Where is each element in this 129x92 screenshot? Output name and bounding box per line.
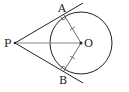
radius-ob	[64, 43, 81, 71]
point-o	[80, 42, 83, 45]
tangent-pb	[15, 43, 83, 83]
label-a: A	[57, 2, 67, 15]
point-p	[14, 42, 17, 45]
tangent-pa	[15, 3, 83, 43]
tangent-diagram: P O A B	[0, 0, 129, 92]
radius-oa	[64, 15, 81, 43]
label-p: P	[4, 37, 12, 50]
label-o: O	[84, 37, 93, 50]
label-b: B	[59, 74, 67, 87]
